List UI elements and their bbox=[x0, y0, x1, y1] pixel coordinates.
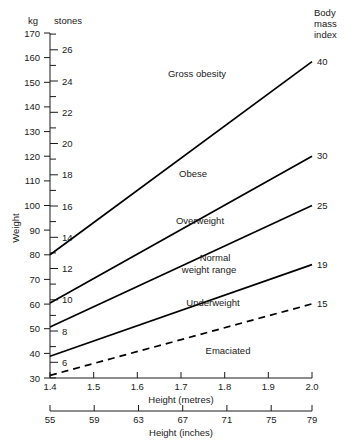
y-tick-kg-90: 90 bbox=[29, 225, 40, 236]
y-tick-stone-24: 24 bbox=[62, 76, 73, 87]
stones-unit-title: stones bbox=[54, 15, 82, 26]
y-tick-kg-60: 60 bbox=[29, 299, 40, 310]
y-tick-stone-20: 20 bbox=[62, 138, 73, 149]
y-axis-kg-ticks: 170 160 150 140 130 120 110 100 90 80 70… bbox=[24, 28, 50, 384]
x-tick-inches-63: 63 bbox=[133, 414, 144, 425]
region-label-normal-weight-range: weight range bbox=[181, 264, 236, 275]
y-tick-stone-18: 18 bbox=[62, 169, 73, 180]
y-tick-stone-12: 12 bbox=[62, 263, 73, 274]
y-tick-stone-16: 16 bbox=[62, 201, 73, 212]
region-label-emaciated: Emaciated bbox=[206, 345, 251, 356]
x-tick-inches-79: 79 bbox=[307, 414, 318, 425]
bmi-chart-svg: kg stones Body mass index 170 160 150 14… bbox=[0, 0, 357, 441]
y-tick-kg-120: 120 bbox=[24, 151, 40, 162]
bmi-curve-15 bbox=[50, 304, 312, 376]
bmi-axis-title-line2: mass bbox=[314, 18, 337, 29]
y-tick-stone-6: 6 bbox=[62, 357, 67, 368]
x-axis-inches-title: Height (inches) bbox=[149, 427, 213, 438]
y-tick-kg-80: 80 bbox=[29, 249, 40, 260]
y-tick-kg-110: 110 bbox=[25, 175, 40, 186]
y-tick-kg-130: 130 bbox=[24, 126, 40, 137]
y-tick-kg-160: 160 bbox=[24, 52, 40, 63]
bmi-curve-19 bbox=[50, 265, 312, 357]
bmi-chart: kg stones Body mass index 170 160 150 14… bbox=[0, 0, 357, 441]
bmi-label-19: 19 bbox=[317, 259, 328, 270]
x-tick-inches-75: 75 bbox=[266, 414, 277, 425]
x-tick-metres-1-4: 1.4 bbox=[43, 381, 56, 392]
y-tick-kg-170: 170 bbox=[24, 28, 40, 39]
region-label-gross-obesity: Gross obesity bbox=[168, 68, 226, 79]
y-tick-kg-150: 150 bbox=[24, 77, 40, 88]
y-tick-kg-30: 30 bbox=[29, 373, 40, 384]
kg-unit-title: kg bbox=[28, 15, 38, 26]
region-label-normal: Normal bbox=[200, 252, 231, 263]
x-axis-metres-title: Height (metres) bbox=[148, 394, 213, 405]
y-tick-kg-100: 100 bbox=[24, 200, 40, 211]
x-axis-metres-ticks: 1.4 1.5 1.6 1.7 1.8 1.9 2.0 bbox=[43, 372, 318, 392]
x-tick-metres-1-6: 1.6 bbox=[131, 381, 144, 392]
x-tick-inches-71: 71 bbox=[222, 414, 233, 425]
bmi-axis-title-line1: Body bbox=[314, 7, 336, 18]
y-tick-kg-50: 50 bbox=[29, 323, 40, 334]
x-tick-inches-59: 59 bbox=[89, 414, 100, 425]
y-axis-title: Weight bbox=[10, 213, 21, 243]
bmi-axis-title-line3: index bbox=[314, 29, 337, 40]
region-label-obese: Obese bbox=[179, 168, 207, 179]
region-label-overweight: Overweight bbox=[176, 215, 224, 226]
y-tick-kg-140: 140 bbox=[24, 101, 40, 112]
region-label-underweight: Underweight bbox=[186, 297, 240, 308]
region-annotations: Gross obesity Obese Overweight Normal we… bbox=[168, 68, 250, 356]
bmi-label-15: 15 bbox=[317, 298, 328, 309]
x-axis-inches-ticks: 55 59 63 67 71 75 79 bbox=[45, 405, 318, 425]
x-tick-metres-1-5: 1.5 bbox=[87, 381, 100, 392]
y-tick-stone-8: 8 bbox=[62, 326, 67, 337]
bmi-value-labels: 40 30 25 19 15 bbox=[317, 56, 328, 309]
x-tick-metres-1-7: 1.7 bbox=[174, 381, 187, 392]
bmi-label-40: 40 bbox=[317, 56, 328, 67]
y-tick-kg-70: 70 bbox=[29, 274, 40, 285]
x-tick-metres-1-9: 1.9 bbox=[262, 381, 275, 392]
y-tick-stone-26: 26 bbox=[62, 44, 73, 55]
y-tick-stone-22: 22 bbox=[62, 107, 73, 118]
x-tick-metres-1-8: 1.8 bbox=[218, 381, 231, 392]
bmi-label-30: 30 bbox=[317, 150, 328, 161]
x-tick-metres-2-0: 2.0 bbox=[305, 381, 318, 392]
x-tick-inches-55: 55 bbox=[45, 414, 56, 425]
bmi-label-25: 25 bbox=[317, 200, 328, 211]
y-tick-kg-40: 40 bbox=[29, 348, 40, 359]
x-tick-inches-67: 67 bbox=[177, 414, 188, 425]
